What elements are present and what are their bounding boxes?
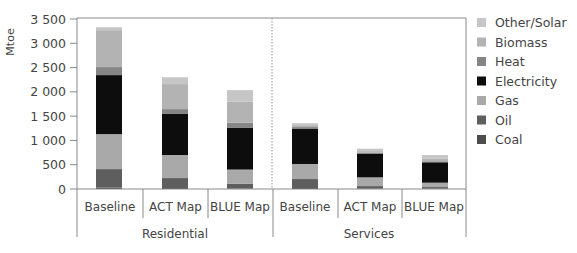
bar-segment-biomass — [357, 151, 383, 152]
legend: Other/SolarBiomassHeatElectricityGasOilC… — [477, 15, 567, 147]
bar-segment-oil — [96, 169, 122, 187]
legend-swatch — [477, 57, 486, 66]
bar-segment-other-solar — [422, 155, 448, 158]
bar-stack — [227, 90, 253, 189]
bar-segment-gas — [422, 183, 448, 187]
x-category-label: BLUE Map — [210, 200, 270, 214]
legend-label: Electricity — [495, 74, 558, 89]
bar-segment-biomass — [292, 125, 318, 127]
bar-segment-biomass — [96, 30, 122, 67]
bar-stack — [292, 123, 318, 189]
bar-segment-heat — [357, 153, 383, 154]
legend-item: Gas — [477, 93, 519, 108]
bar-stack — [357, 149, 383, 189]
y-axis-label: Mtoe — [4, 28, 17, 56]
y-tick-label: 2 500 — [30, 60, 66, 75]
y-tick-label: 0 — [58, 182, 66, 197]
legend-item: Other/Solar — [477, 15, 567, 30]
bar-segment-oil — [227, 184, 253, 189]
x-group-label: Residential — [142, 227, 208, 241]
y-tick-label: 1 500 — [30, 109, 66, 124]
y-tick-label: 3 000 — [30, 36, 66, 51]
bar-segment-heat — [162, 109, 188, 114]
bar-segment-electricity — [357, 154, 383, 178]
legend-item: Oil — [477, 113, 512, 128]
legend-swatch — [477, 18, 486, 27]
bar-stack — [96, 27, 122, 189]
bar-segment-biomass — [422, 158, 448, 161]
legend-swatch — [477, 135, 486, 144]
x-category-label: BLUE Map — [404, 200, 464, 214]
bar-segment-heat — [227, 123, 253, 128]
y-tick-label: 3 500 — [30, 12, 66, 27]
x-category-label: ACT Map — [344, 200, 397, 214]
legend-label: Oil — [495, 113, 512, 128]
legend-label: Biomass — [495, 35, 548, 50]
legend-swatch — [477, 77, 486, 86]
bar-stack — [422, 155, 448, 189]
bar-segment-gas — [96, 134, 122, 169]
bar-segment-heat — [96, 67, 122, 75]
x-axis: BaselineACT MapBLUE MapBaselineACT MapBL… — [77, 189, 466, 241]
legend-swatch — [477, 96, 486, 105]
bar-segment-biomass — [227, 102, 253, 123]
bar-segment-oil — [357, 186, 383, 189]
x-group-label: Services — [344, 227, 395, 241]
bar-segment-other-solar — [162, 77, 188, 84]
x-category-label: ACT Map — [149, 200, 202, 214]
bar-segment-other-solar — [96, 27, 122, 30]
bar-segment-oil — [292, 179, 318, 188]
bar-segment-other-solar — [357, 149, 383, 151]
bar-segment-electricity — [422, 162, 448, 182]
x-category-label: Baseline — [85, 200, 136, 214]
bar-segment-gas — [357, 177, 383, 186]
y-tick-label: 500 — [42, 157, 66, 172]
legend-label: Heat — [495, 54, 525, 69]
bar-segment-electricity — [162, 114, 188, 155]
bar-segment-gas — [227, 170, 253, 184]
y-tick-label: 1 000 — [30, 133, 66, 148]
bar-segment-gas — [292, 164, 318, 179]
legend-swatch — [477, 116, 486, 125]
legend-item: Biomass — [477, 35, 548, 50]
bar-segment-other-solar — [292, 123, 318, 125]
legend-item: Coal — [477, 132, 523, 147]
bar-segment-other-solar — [227, 90, 253, 102]
legend-label: Coal — [495, 132, 523, 147]
legend-item: Electricity — [477, 74, 558, 89]
bar-segment-heat — [422, 161, 448, 162]
bar-segment-electricity — [96, 75, 122, 134]
bar-segment-electricity — [292, 129, 318, 164]
bar-segment-electricity — [227, 128, 253, 170]
stacked-bar-chart: 05001 0001 5002 0002 5003 0003 500 Basel… — [0, 0, 577, 253]
y-tick-label: 2 000 — [30, 84, 66, 99]
x-category-label: Baseline — [280, 200, 331, 214]
bar-segment-biomass — [162, 84, 188, 109]
y-axis: 05001 0001 5002 0002 5003 0003 500 — [30, 12, 77, 238]
legend-item: Heat — [477, 54, 525, 69]
bar-segment-gas — [162, 155, 188, 178]
legend-label: Gas — [495, 93, 519, 108]
bar-stack — [162, 77, 188, 189]
bar-segment-oil — [162, 178, 188, 188]
legend-label: Other/Solar — [495, 15, 567, 30]
legend-swatch — [477, 38, 486, 47]
bar-segment-heat — [292, 127, 318, 129]
